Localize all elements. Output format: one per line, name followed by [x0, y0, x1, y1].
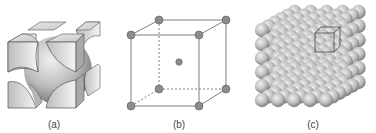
figure-canvas: (a) (b) (c): [0, 0, 376, 133]
body-center-atom: [176, 59, 182, 65]
panel-c-atom-aggregate: [255, 5, 366, 107]
corner-atom: [222, 85, 230, 93]
corner-atom: [195, 31, 203, 39]
corner-atom: [195, 102, 203, 110]
corner-atom: [127, 31, 135, 39]
atom-sphere: [287, 93, 301, 107]
atom-sphere: [303, 93, 317, 107]
atom-sphere: [271, 93, 285, 107]
panel-c-label: (c): [307, 119, 319, 130]
panel-a-label: (a): [48, 119, 60, 130]
panel-b-label: (b): [173, 119, 185, 130]
corner-atom: [127, 102, 135, 110]
panel-a-hard-sphere-cell: [8, 22, 100, 108]
atom-sphere: [255, 93, 269, 107]
corner-atom: [222, 16, 230, 24]
corner-atom: [155, 16, 163, 24]
corner-atom: [155, 85, 163, 93]
hidden-edge: [131, 89, 159, 106]
atom-sphere: [319, 93, 333, 107]
